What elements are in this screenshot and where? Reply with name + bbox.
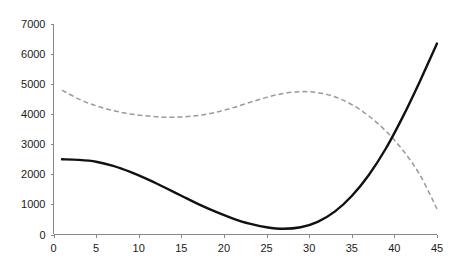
x-tick-label: 45 — [431, 242, 443, 254]
chart-canvas: 01000200030004000500060007000 0510152025… — [0, 0, 464, 269]
y-tick-label: 7000 — [21, 18, 45, 30]
x-tick-label: 5 — [93, 242, 99, 254]
y-tick-label: 6000 — [21, 48, 45, 60]
x-tick-label: 20 — [218, 242, 230, 254]
x-tick-label: 25 — [260, 242, 272, 254]
y-tick-label: 2000 — [21, 168, 45, 180]
x-tick-label: 0 — [50, 242, 56, 254]
y-tick-label: 1000 — [21, 198, 45, 210]
x-tick-label: 15 — [175, 242, 187, 254]
y-tick-label: 3000 — [21, 138, 45, 150]
x-tick-label: 35 — [346, 242, 358, 254]
x-tick-label: 30 — [303, 242, 315, 254]
y-tick-label: 0 — [39, 229, 45, 241]
chart-figure: 01000200030004000500060007000 0510152025… — [0, 0, 464, 269]
x-tick-label: 10 — [133, 242, 145, 254]
x-tick-label: 40 — [388, 242, 400, 254]
y-tick-label: 5000 — [21, 78, 45, 90]
y-tick-label: 4000 — [21, 108, 45, 120]
